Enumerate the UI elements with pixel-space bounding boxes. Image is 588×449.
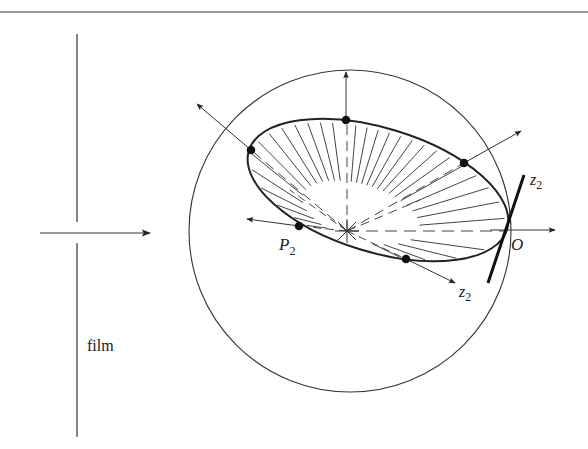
label-z2-lower: z2 bbox=[458, 283, 471, 304]
normal-arrow-p2 bbox=[247, 219, 299, 226]
point-upper-left bbox=[247, 146, 256, 155]
point-p2 bbox=[295, 222, 304, 231]
optics-diagram: film bbox=[0, 0, 588, 449]
normal-arrow-upper-right bbox=[464, 131, 521, 163]
label-o: O bbox=[511, 235, 523, 254]
film-label: film bbox=[87, 337, 114, 354]
radial-hatching bbox=[251, 118, 510, 260]
point-bottom bbox=[402, 255, 411, 264]
label-z2-upper: z2 bbox=[529, 171, 542, 192]
label-p2: P2 bbox=[278, 235, 295, 258]
normal-arrow-bottom bbox=[406, 259, 455, 283]
point-top bbox=[342, 116, 351, 125]
center-star bbox=[335, 219, 359, 243]
point-upper-right bbox=[460, 159, 469, 168]
